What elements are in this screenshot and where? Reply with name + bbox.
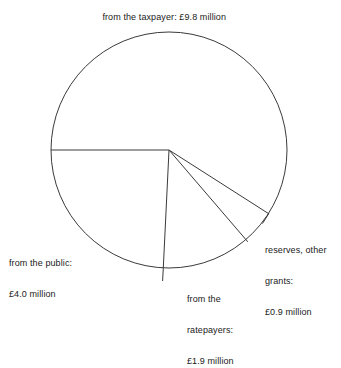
slice-label-ratepayers: from the ratepayers: £1.9 million — [187, 274, 234, 368]
slice-label-public: from the public: £4.0 million — [9, 238, 72, 320]
slice-label-public-line1: from the public: — [9, 258, 72, 268]
slice-label-taxpayer: from the taxpayer: £9.8 million — [92, 2, 226, 33]
slice-label-reserves-line1: reserves, other — [265, 245, 327, 255]
slice-label-ratepayers-line3: £1.9 million — [187, 356, 234, 366]
slice-label-taxpayer-text: from the taxpayer: £9.8 million — [102, 12, 226, 22]
slice-label-ratepayers-line1: from the — [187, 294, 234, 304]
slice-label-reserves-line3: £0.9 million — [265, 307, 327, 317]
slice-label-public-line2: £4.0 million — [9, 289, 72, 299]
leader-line-ratepayers — [163, 268, 164, 281]
slice-label-reserves-line2: grants: — [265, 276, 327, 286]
slice-label-ratepayers-line2: ratepayers: — [187, 325, 234, 335]
slice-label-reserves: reserves, other grants: £0.9 million — [265, 225, 327, 337]
